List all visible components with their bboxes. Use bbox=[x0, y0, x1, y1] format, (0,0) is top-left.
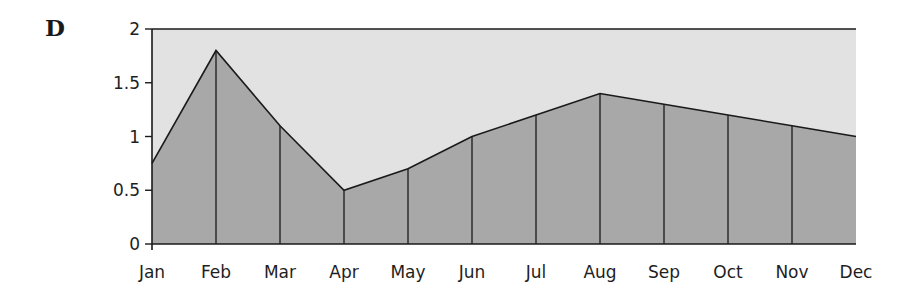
x-tick-label: Oct bbox=[713, 262, 743, 282]
x-axis-labels: JanFebMarAprMayJunJulAugSepOctNovDec bbox=[138, 262, 873, 282]
x-tick-label: Nov bbox=[775, 262, 808, 282]
y-tick-label: 0 bbox=[129, 234, 140, 254]
y-tick-label: 0.5 bbox=[113, 180, 140, 200]
y-tick-label: 1.5 bbox=[113, 73, 140, 93]
x-tick-label: Sep bbox=[648, 262, 680, 282]
x-tick-label: Apr bbox=[329, 262, 358, 282]
x-tick-label: Jul bbox=[525, 262, 547, 282]
y-tick-label: 1 bbox=[129, 127, 140, 147]
x-tick-label: Feb bbox=[201, 262, 231, 282]
x-tick-label: Jan bbox=[138, 262, 165, 282]
x-tick-label: Aug bbox=[583, 262, 616, 282]
x-tick-label: May bbox=[390, 262, 425, 282]
area-chart: 00.511.52 JanFebMarAprMayJunJulAugSepOct… bbox=[0, 0, 920, 308]
x-tick-label: Dec bbox=[840, 262, 873, 282]
x-tick-label: Jun bbox=[458, 262, 486, 282]
y-tick-label: 2 bbox=[129, 19, 140, 39]
x-tick-label: Mar bbox=[264, 262, 296, 282]
y-axis-ticks: 00.511.52 bbox=[113, 19, 152, 254]
